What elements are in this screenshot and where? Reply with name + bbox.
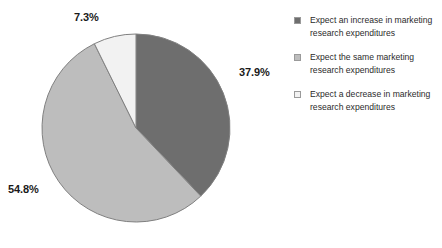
pie-chart-figure: 7.3% 37.9% 54.8% Expect an increase in m… xyxy=(0,0,442,248)
pie-label-same: 54.8% xyxy=(8,183,39,195)
legend-label-same: Expect the same marketing research expen… xyxy=(310,51,442,77)
pie-chart-plot-area: 7.3% 37.9% 54.8% xyxy=(0,0,270,248)
legend-item-increase[interactable]: Expect an increase in marketing research… xyxy=(294,14,442,40)
legend-item-same[interactable]: Expect the same marketing research expen… xyxy=(294,51,442,77)
legend-label-increase-line1: Expect an increase in marketing xyxy=(310,14,442,27)
legend-item-decrease[interactable]: Expect a decrease in marketing research … xyxy=(294,88,442,114)
legend-label-increase-line2: research expenditures xyxy=(310,27,442,40)
pie-chart-svg xyxy=(0,0,270,248)
pie-label-decrease: 7.3% xyxy=(74,11,99,23)
legend-label-decrease-line2: research expenditures xyxy=(310,101,442,114)
pie-label-increase: 37.9% xyxy=(239,66,270,78)
pie-slice-group xyxy=(42,34,230,222)
legend-label-same-line1: Expect the same marketing xyxy=(310,51,442,64)
chart-legend: Expect an increase in marketing research… xyxy=(294,14,442,125)
legend-swatch-icon-increase xyxy=(294,17,301,24)
legend-label-decrease-line1: Expect a decrease in marketing xyxy=(310,88,442,101)
legend-swatch-icon-decrease xyxy=(294,91,301,98)
legend-label-increase: Expect an increase in marketing research… xyxy=(310,14,442,40)
legend-label-same-line2: research expenditures xyxy=(310,64,442,77)
legend-swatch-icon-same xyxy=(294,54,301,61)
legend-label-decrease: Expect a decrease in marketing research … xyxy=(310,88,442,114)
